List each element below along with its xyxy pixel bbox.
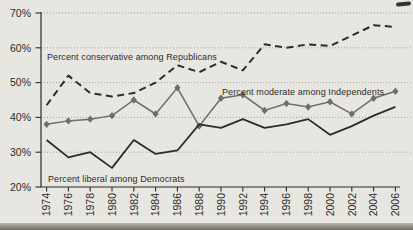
y-tick-label: 40% [10, 111, 31, 123]
x-tick-label: 1990 [215, 193, 227, 217]
y-tick-label: 50% [10, 76, 31, 88]
data-point-marker [65, 117, 71, 124]
x-tick-label: 2006 [389, 193, 401, 217]
x-tick-label: 1976 [62, 193, 74, 217]
chart-page: 70%60%50%40%30%20%1974197619781980198219… [0, 0, 413, 230]
x-tick-label: 2002 [346, 193, 358, 217]
data-point-marker [349, 110, 355, 117]
x-tick-label: 1996 [280, 193, 292, 217]
series-label-moderate-independents: Percent moderate among Independents [222, 87, 384, 97]
page-edge-shadow [0, 223, 413, 230]
y-tick-label: 20% [10, 181, 31, 193]
x-axis-labels: 1974197619781980198219841986198819901992… [40, 193, 401, 217]
y-tick-label: 30% [10, 146, 31, 158]
line-chart: 70%60%50%40%30%20%1974197619781980198219… [0, 0, 413, 230]
x-tick-label: 1980 [106, 193, 118, 217]
data-point-marker [392, 88, 398, 95]
y-axis-labels: 70%60%50%40%30%20% [10, 7, 31, 193]
data-point-marker [131, 96, 137, 103]
series-label-conservative-republicans: Percent conservative among Republicans [47, 52, 217, 62]
y-tick-label: 60% [10, 42, 31, 54]
series-label-liberal-democrats: Percent liberal among Democrats [48, 174, 185, 184]
data-point-marker [305, 103, 311, 110]
x-tick-label: 1986 [171, 193, 183, 217]
x-tick-label: 1988 [193, 193, 205, 217]
data-point-marker [262, 107, 268, 114]
data-point-marker [109, 112, 115, 119]
data-point-marker [283, 100, 289, 107]
data-point-marker [44, 121, 50, 128]
x-tick-label: 1982 [128, 193, 140, 217]
data-point-marker [327, 98, 333, 105]
x-tick-label: 2000 [324, 193, 336, 217]
x-tick-label: 1998 [302, 193, 314, 217]
x-tick-label: 1994 [258, 193, 270, 217]
series-liberal-democrats [47, 107, 396, 168]
x-tick-label: 1992 [237, 193, 249, 217]
x-tick-label: 1974 [40, 193, 52, 217]
data-point-marker [87, 115, 93, 122]
x-tick-label: 2004 [367, 193, 379, 217]
y-tick-label: 70% [10, 7, 31, 19]
x-tick-label: 1978 [84, 193, 96, 217]
x-tick-label: 1984 [149, 193, 161, 217]
